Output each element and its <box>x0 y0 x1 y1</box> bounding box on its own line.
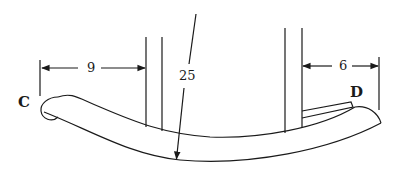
rocker-diagram: C D 9 25 6 <box>0 0 401 173</box>
radius-line-lower <box>177 88 185 159</box>
skid-plank <box>302 102 353 118</box>
dimension-9-label: 9 <box>86 61 96 75</box>
point-d-label: D <box>350 84 363 100</box>
dimension-6-label: 6 <box>338 59 348 73</box>
point-c-label: C <box>18 94 30 110</box>
dimension-25-label: 25 <box>178 69 197 83</box>
radius-line-upper <box>189 14 196 64</box>
rocker-right-tip <box>355 107 381 123</box>
rocker-drawing <box>0 0 401 173</box>
